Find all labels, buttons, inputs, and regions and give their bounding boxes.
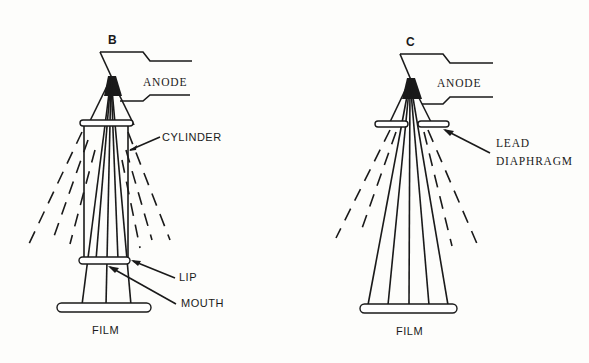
mouth-label: MOUTH <box>181 297 224 309</box>
anode-c-outline-bottom <box>422 97 493 104</box>
cylinder-arrowhead-icon <box>129 145 137 151</box>
rays-c <box>368 80 448 305</box>
diagram-c-title: C <box>406 35 415 49</box>
film-b-label: FILM <box>92 324 119 336</box>
lip-arrowhead-icon <box>131 260 141 266</box>
film-c-label: FILM <box>396 325 423 337</box>
lead-diaphragm-arrowhead-icon <box>443 129 454 136</box>
diagram-c: C ANODE FILM <box>336 35 573 337</box>
scatter-rays-c <box>336 130 478 246</box>
anode-b-outline-top <box>100 52 192 61</box>
anode-b-label: ANODE <box>143 76 187 88</box>
lip-label: LIP <box>179 271 197 283</box>
diagram-canvas: B ANODE <box>0 0 589 363</box>
diagram-b: B ANODE <box>28 33 224 336</box>
film-b <box>57 303 151 312</box>
anode-c-label: ANODE <box>437 77 481 89</box>
diagram-b-title: B <box>108 33 117 47</box>
xray-beam-diagrams: B ANODE <box>0 0 589 363</box>
rays-b <box>82 78 134 305</box>
lead-label-line1: LEAD <box>496 137 530 149</box>
lead-label-line2: DIAPHRAGM <box>496 155 573 167</box>
anode-c-outline-top <box>400 54 493 63</box>
anode-b-outline-bottom <box>120 95 190 101</box>
lead-diaphragm-right <box>418 121 449 127</box>
cylinder-lip <box>79 257 130 264</box>
film-c <box>360 304 457 313</box>
cylinder-label: CYLINDER <box>162 131 222 143</box>
lead-diaphragm-left <box>375 121 408 127</box>
anode-b-face <box>100 52 112 78</box>
mouth-leader <box>110 267 176 304</box>
cylinder-top-ring <box>80 120 133 126</box>
anode-c-face <box>400 54 411 80</box>
